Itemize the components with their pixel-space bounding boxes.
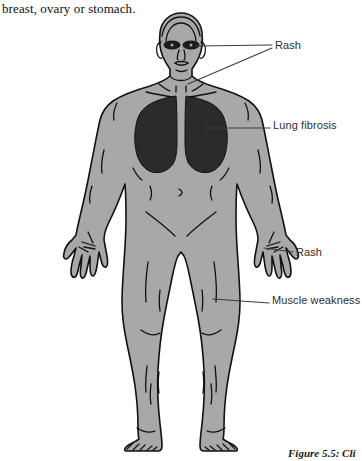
body-outline-path — [64, 13, 299, 451]
figure-caption: Figure 5.5: Cli — [288, 447, 356, 459]
annotation-label-rash-face: Rash — [275, 39, 301, 51]
anatomical-figure-illustration — [0, 0, 362, 461]
leader-line-rash-face — [196, 45, 272, 46]
annotation-label-lung-fibrosis: Lung fibrosis — [273, 119, 337, 131]
annotation-label-rash-hand: Rash — [296, 246, 322, 258]
annotation-label-muscle-weakness: Muscle weakness — [272, 294, 360, 306]
body-silhouette — [64, 13, 299, 451]
figure-page: breast, ovary or stomach. — [0, 0, 362, 461]
